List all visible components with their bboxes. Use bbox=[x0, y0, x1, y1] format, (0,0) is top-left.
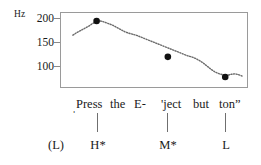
y-tick-label-100: 100 bbox=[0, 60, 54, 72]
word-the: the bbox=[110, 96, 125, 112]
tone-label-l-initial: (L) bbox=[48, 136, 64, 154]
accent-marker-m-star bbox=[165, 54, 172, 61]
leader-line-m-star bbox=[167, 113, 168, 132]
f0-contour-plot bbox=[61, 13, 247, 87]
tone-label-h-star: H* bbox=[90, 136, 105, 154]
tone-label-m-star: M* bbox=[159, 136, 176, 154]
leader-line-h-star bbox=[97, 113, 98, 132]
word-e-prefix: E- bbox=[134, 96, 146, 112]
word-ject: 'ject bbox=[161, 96, 181, 112]
word-ton: ton” bbox=[219, 96, 241, 112]
word-but: but bbox=[193, 96, 209, 112]
f0-contour-trace bbox=[73, 21, 243, 77]
pitch-contour-figure: Hz 200 150 100 ˌ Press the E- 'ject but … bbox=[0, 0, 261, 165]
tone-label-tier: (L) H* M* L bbox=[0, 136, 261, 154]
tone-label-l-final: L bbox=[222, 136, 230, 154]
y-tick-label-150: 150 bbox=[0, 36, 54, 48]
word-press: Press bbox=[76, 96, 102, 112]
utterance-text-tier: ˌ Press the E- 'ject but ton” bbox=[60, 96, 250, 112]
accent-marker-h-star bbox=[93, 18, 100, 25]
f0-accent-markers bbox=[93, 18, 228, 81]
y-tick-label-200: 200 bbox=[0, 12, 54, 24]
accent-marker-l bbox=[222, 74, 229, 81]
plot-area bbox=[60, 12, 248, 88]
leader-line-l bbox=[225, 113, 226, 132]
